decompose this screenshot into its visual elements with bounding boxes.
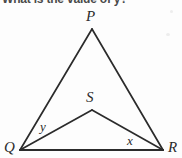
angle-label-x: x [127, 134, 133, 147]
scan-artifact [170, 10, 173, 13]
segment-PR [92, 29, 163, 150]
vertex-label-S: S [86, 90, 94, 105]
segment-QS [20, 110, 92, 150]
vertex-label-P: P [86, 9, 95, 24]
angle-label-y: y [40, 120, 46, 133]
vertex-label-Q: Q [4, 140, 15, 155]
scan-artifact [166, 33, 170, 36]
geometry-question-figure: What is the value of y? P Q R S y x [0, 0, 182, 158]
vertex-label-R: R [168, 140, 177, 155]
segment-PQ [20, 29, 92, 150]
